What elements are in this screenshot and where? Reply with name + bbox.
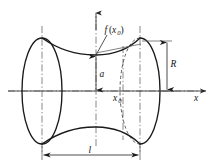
upper-generating-curve [42, 38, 140, 55]
label-f-close-paren: ) [120, 25, 123, 36]
label-x0-subscript: 0 [118, 97, 122, 104]
label-R: R [170, 59, 177, 69]
label-a: a [100, 69, 105, 79]
label-x0: x [112, 93, 118, 103]
label-f-x0-group: f ( x 0 ) [105, 25, 124, 36]
label-l: l [89, 145, 92, 155]
figure-container: a R l f ( x 0 ) x 0 x [0, 0, 217, 166]
label-x0-group: x 0 [112, 93, 122, 104]
lower-generating-curve [42, 127, 140, 144]
label-x-axis: x [193, 93, 199, 103]
label-f: f [105, 25, 109, 35]
label-f-arg: x [111, 25, 117, 35]
hyperboloid-diagram: a R l f ( x 0 ) x 0 x [0, 0, 217, 166]
